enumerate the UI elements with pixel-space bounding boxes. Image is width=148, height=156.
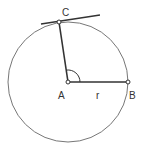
- diagram-canvas: A B C r: [0, 0, 148, 156]
- point-a: [66, 80, 70, 84]
- point-b: [126, 80, 130, 84]
- segment-ac: [59, 22, 68, 82]
- point-c: [57, 20, 61, 24]
- label-b: B: [129, 90, 136, 101]
- label-a: A: [58, 90, 65, 101]
- tangent-line: [41, 15, 100, 24]
- label-c: C: [62, 7, 69, 18]
- label-radius: r: [96, 90, 100, 101]
